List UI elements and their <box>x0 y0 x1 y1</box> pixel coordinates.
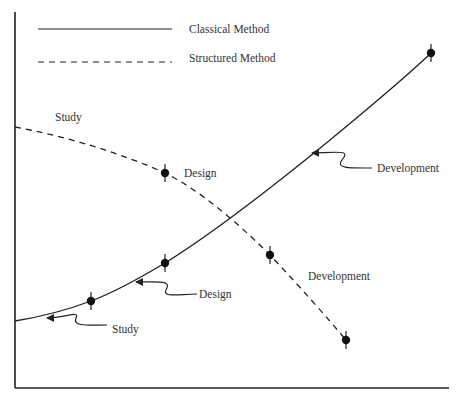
classical-study-point <box>87 292 95 310</box>
structured-points <box>161 164 350 349</box>
structured-design-point <box>161 164 169 182</box>
classical-points <box>87 44 435 310</box>
classical-study-label: Study <box>112 323 139 336</box>
structured-method-curve <box>15 127 346 340</box>
structured-end-point <box>342 331 350 349</box>
legend-classical-label: Classical Method <box>189 23 269 35</box>
structured-design-label: Design <box>184 167 217 180</box>
classical-development-arrow-icon <box>312 152 372 168</box>
structured-study-label: Study <box>55 111 82 124</box>
classical-development-label: Development <box>377 162 440 175</box>
classical-design-point <box>161 254 169 272</box>
classical-design-label: Design <box>199 288 232 301</box>
classical-study-arrow-icon <box>47 314 107 325</box>
legend-structured-label: Structured Method <box>189 52 276 64</box>
structured-development-label: Development <box>308 270 371 283</box>
legend: Classical Method Structured Method <box>38 23 276 64</box>
structured-development-point <box>266 246 274 264</box>
classical-development-point <box>427 44 435 62</box>
phase-chart: Classical Method Structured Method <box>0 0 459 400</box>
classical-design-arrow-icon <box>136 282 197 295</box>
